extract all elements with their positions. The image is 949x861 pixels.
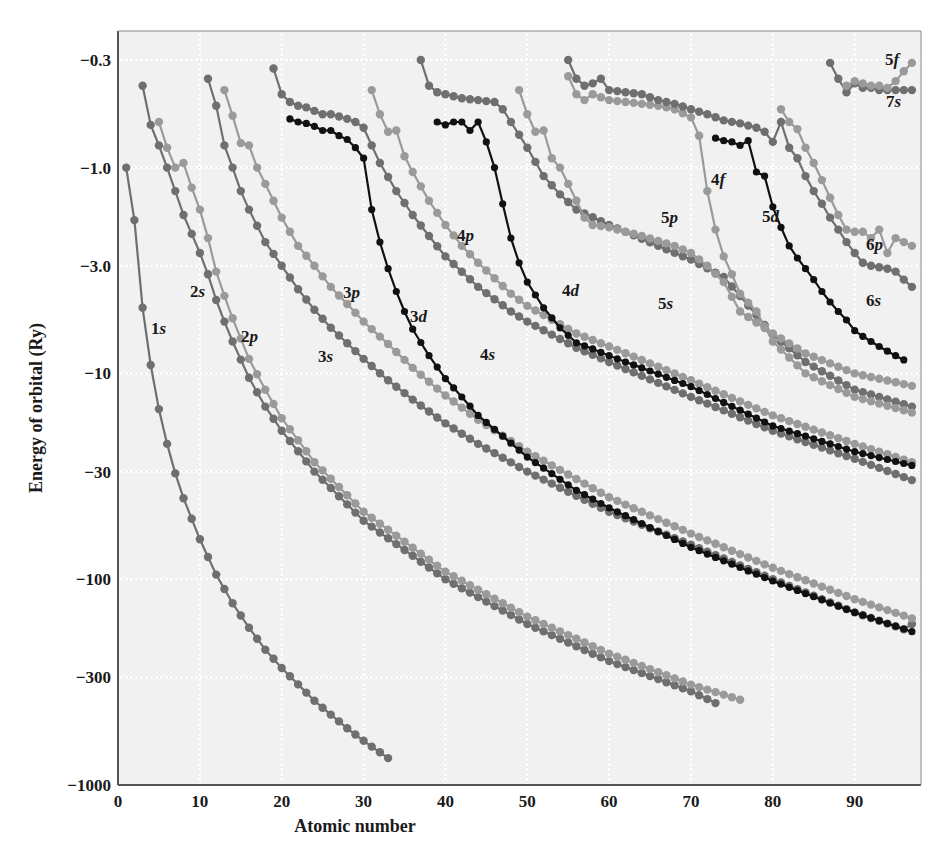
data-point [851,609,858,616]
data-point [801,349,809,357]
data-point [490,295,498,303]
data-point [523,620,531,628]
data-point [654,379,662,387]
data-point [294,102,302,110]
data-point [744,313,752,321]
data-point [728,270,736,278]
data-point [556,324,563,331]
data-point [556,335,564,343]
data-point [449,572,457,580]
data-point [499,606,507,614]
data-point [400,389,408,397]
data-point [728,138,735,145]
data-point [147,121,155,129]
data-point [736,550,744,558]
data-point [343,339,351,347]
data-point [851,448,858,455]
data-point [752,318,760,326]
data-point [761,574,768,581]
data-point [327,710,335,718]
data-point [842,452,850,460]
data-point [147,361,155,369]
x-tick-label: 40 [437,792,454,811]
data-point [539,475,547,483]
data-point [392,383,400,391]
x-tick-label: 50 [519,792,536,811]
data-point [441,221,449,229]
data-point [630,352,638,360]
data-point [450,118,457,125]
data-point [318,315,326,323]
data-point [335,717,343,725]
data-point [278,414,286,422]
data-point [392,126,400,134]
data-point [720,690,728,698]
data-point [245,374,253,382]
data-point [425,352,432,359]
data-point [867,452,874,459]
data-point [179,159,187,167]
data-point [670,242,678,250]
data-point [835,603,842,610]
data-point [425,197,433,205]
data-point [875,263,883,271]
data-point [564,56,572,64]
data-point [891,404,899,412]
data-point [777,414,785,422]
x-tick-label: 70 [682,792,699,811]
data-point [196,205,204,213]
data-point [482,289,490,297]
data-point [760,560,768,568]
data-point [311,123,318,130]
data-point [622,512,629,519]
data-point [351,309,359,317]
data-point [589,221,597,229]
data-point [474,259,482,267]
data-point [318,272,326,280]
data-point [630,504,638,512]
data-point [540,304,547,311]
data-point [794,430,801,437]
data-point [327,484,335,492]
data-point [302,688,310,696]
data-point [523,144,531,152]
data-point [539,326,547,334]
data-point [728,403,735,410]
data-point [687,680,695,688]
data-point [474,593,482,601]
curve-label-5f: 5f [885,50,902,69]
data-point [654,668,662,676]
data-point [621,663,629,671]
data-point [622,358,629,365]
data-point [900,238,908,246]
data-point [482,590,490,598]
data-point [490,274,498,282]
data-point [523,317,531,325]
data-point [531,616,539,624]
data-point [900,460,907,467]
data-point [867,614,874,621]
data-point [409,364,417,372]
data-point [777,345,785,353]
data-point [679,102,687,110]
curve-label-7s: 7s [886,92,902,111]
data-point [883,467,891,475]
data-point [335,112,343,120]
data-point [433,242,441,250]
data-point [646,101,654,109]
data-point [515,131,523,139]
data-point [769,564,777,572]
data-point [359,317,367,325]
data-point [842,437,850,445]
data-point [392,540,400,548]
data-point [810,579,818,587]
data-point [483,138,490,145]
data-point [670,386,678,394]
data-point [269,250,277,258]
data-point [785,118,793,126]
data-point [737,564,744,571]
y-tick-label: −3.0 [80,257,111,276]
data-point [531,322,539,330]
data-point [524,279,531,286]
data-point [826,194,834,202]
